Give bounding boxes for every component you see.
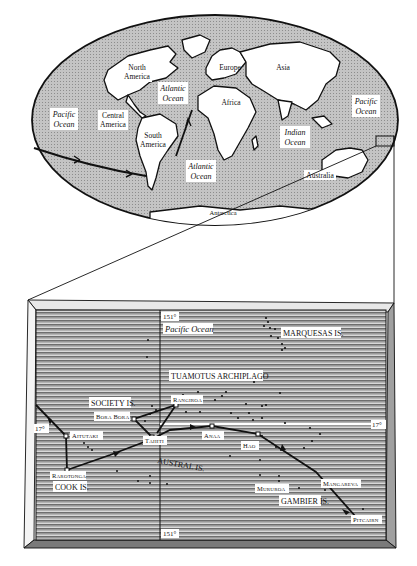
label-cook: COOK IS. — [55, 483, 89, 492]
label-indian-ocean: Indian — [284, 128, 306, 137]
label-hao: Hao — [243, 442, 256, 449]
label-gambier: GAMBIER IS. — [281, 497, 329, 506]
figure: North America Central America South Amer… — [0, 0, 417, 566]
svg-text:America: America — [140, 140, 166, 149]
label-rarotonga: Rarotonga — [52, 472, 86, 479]
svg-text:Ocean: Ocean — [191, 172, 212, 181]
label-tuamotus: TUAMOTUS ARCHIPLAGO — [171, 372, 269, 381]
label-north-america: North — [128, 63, 146, 72]
label-south-america: South — [144, 131, 162, 140]
label-antarctica: Antarctica — [209, 209, 236, 216]
label-atlantic-ocean-south: Atlantic — [187, 162, 214, 171]
label-pacific-ocean-west: Pacific — [52, 110, 76, 119]
label-marquesas: MARQUESAS IS. — [283, 329, 343, 338]
svg-text:Ocean: Ocean — [54, 120, 75, 129]
land-new-zealand — [370, 178, 378, 192]
label-pitcairn: Pitcairn — [353, 516, 379, 523]
label-central-america: Central — [102, 111, 124, 120]
label-mangareva: Mangareva — [323, 480, 358, 487]
svg-text:America: America — [124, 72, 150, 81]
label-asia: Asia — [276, 63, 290, 72]
label-atlantic-ocean-north: Atlantic — [159, 84, 186, 93]
label-aitutaki: Aitutaki — [72, 432, 98, 439]
svg-text:Ocean: Ocean — [285, 138, 306, 147]
label-australia: Australia — [306, 171, 334, 180]
label-longitude-top: 151° — [163, 313, 177, 321]
svg-text:Ocean: Ocean — [356, 107, 377, 116]
label-pacific-ocean-east: Pacific — [354, 97, 378, 106]
label-latitude-left: 17° — [35, 425, 45, 433]
label-latitude-right: 17° — [372, 421, 382, 429]
svg-text:Ocean: Ocean — [163, 94, 184, 103]
label-longitude-bottom: 151° — [163, 530, 177, 538]
label-africa: Africa — [221, 98, 241, 107]
label-europe: Europe — [219, 63, 241, 72]
inset-map: 151° Pacific Ocean MARQUESAS IS. TUAMOTU… — [24, 300, 396, 548]
label-mururoa: Mururoa — [257, 485, 285, 492]
label-tahiti: Tahiti — [145, 437, 164, 444]
label-anaa: Anaa — [204, 432, 221, 439]
label-pacific-ocean: Pacific Ocean — [164, 324, 213, 334]
world-map: North America Central America South Amer… — [32, 15, 398, 226]
svg-text:America: America — [100, 120, 126, 129]
label-society: SOCIETY IS. — [91, 399, 136, 408]
label-bora-bora: Bora Bora — [96, 413, 129, 420]
label-rangiroa: Rangiroa — [173, 396, 202, 403]
